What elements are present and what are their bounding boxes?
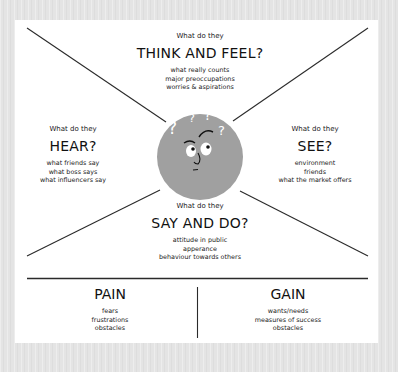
pain-items: fears frustrations obstacles	[60, 307, 160, 333]
list-item: frustrations	[60, 316, 160, 325]
see-heading: SEE?	[270, 137, 360, 155]
list-item: major preoccupations	[120, 75, 280, 84]
quadrant-hear: What do they HEAR? what friends say what…	[28, 125, 118, 185]
list-item: behaviour towards others	[130, 253, 270, 262]
gain-items: wants/needs measures of success obstacle…	[238, 307, 338, 333]
gain-heading: GAIN	[238, 285, 338, 303]
think-feel-items: what really counts major preoccupations …	[120, 66, 280, 92]
list-item: measures of success	[238, 316, 338, 325]
hear-items: what friends say what boss says what inf…	[28, 159, 118, 185]
hear-heading: HEAR?	[28, 137, 118, 155]
list-item: fears	[60, 307, 160, 316]
list-item: what the market offers	[270, 176, 360, 185]
say-do-heading: SAY AND DO?	[130, 214, 270, 232]
hear-prompt: What do they	[28, 125, 118, 134]
list-item: what influencers say	[28, 176, 118, 185]
say-do-prompt: What do they	[130, 202, 270, 211]
quadrant-see: What do they SEE? environment friends wh…	[270, 125, 360, 185]
see-prompt: What do they	[270, 125, 360, 134]
section-pain: PAIN fears frustrations obstacles	[60, 285, 160, 333]
list-item: apperance	[130, 245, 270, 254]
list-item: friends	[270, 168, 360, 177]
section-gain: GAIN wants/needs measures of success obs…	[238, 285, 338, 333]
see-items: environment friends what the market offe…	[270, 159, 360, 185]
list-item: obstacles	[238, 324, 338, 333]
list-item: obstacles	[60, 324, 160, 333]
list-item: what boss says	[28, 168, 118, 177]
say-do-items: attitude in public apperance behaviour t…	[130, 236, 270, 262]
think-feel-heading: THINK AND FEEL?	[120, 44, 280, 62]
quadrant-say-do: What do they SAY AND DO? attitude in pub…	[130, 202, 270, 262]
list-item: what really counts	[120, 66, 280, 75]
pain-heading: PAIN	[60, 285, 160, 303]
list-item: wants/needs	[238, 307, 338, 316]
list-item: worries & aspirations	[120, 83, 280, 92]
list-item: environment	[270, 159, 360, 168]
quadrant-think-feel: What do they THINK AND FEEL? what really…	[120, 32, 280, 92]
list-item: what friends say	[28, 159, 118, 168]
list-item: attitude in public	[130, 236, 270, 245]
think-feel-prompt: What do they	[120, 32, 280, 41]
